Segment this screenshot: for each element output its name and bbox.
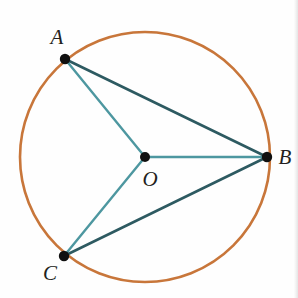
vertex-dot-O bbox=[140, 152, 150, 162]
geometry-figure: A B C O bbox=[0, 0, 298, 298]
point-label-B: B bbox=[279, 145, 292, 169]
vertex-dot-A bbox=[60, 54, 70, 64]
vertex-dot-C bbox=[59, 251, 69, 261]
point-label-O: O bbox=[142, 167, 157, 191]
segment-OA bbox=[65, 59, 145, 157]
segment-OC bbox=[64, 157, 145, 256]
point-label-C: C bbox=[43, 261, 58, 285]
point-label-A: A bbox=[49, 25, 64, 49]
vertex-dot-B bbox=[262, 152, 272, 162]
diagram-canvas: A B C O bbox=[0, 0, 298, 298]
